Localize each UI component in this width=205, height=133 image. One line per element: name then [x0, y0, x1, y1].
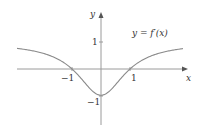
x-tick-label-1: 1 [131, 73, 137, 83]
x-axis-arrow-icon [182, 67, 188, 72]
y-tick-label-neg1: −1 [87, 97, 100, 107]
curve-label: y = f′(x) [131, 28, 168, 38]
y-axis-arrow-icon [99, 12, 104, 18]
curve-f-prime [17, 48, 183, 95]
x-axis-label: x [186, 73, 191, 83]
y-tick-label-1: 1 [92, 37, 98, 47]
chart: y x −1 1 1 −1 y = f′(x) [0, 0, 205, 133]
y-axis-label: y [89, 9, 96, 19]
x-tick-label-neg1: −1 [61, 73, 74, 83]
